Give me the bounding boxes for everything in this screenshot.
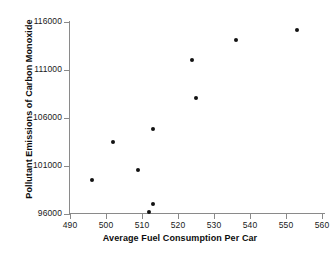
data-point: [147, 210, 151, 214]
x-tick-label: 550: [271, 221, 301, 230]
data-point: [151, 202, 155, 206]
data-point: [111, 140, 115, 144]
plot-area: [70, 22, 322, 214]
x-tick-label: 500: [91, 221, 121, 230]
y-tick-mark: [64, 70, 69, 71]
y-tick-mark: [64, 118, 69, 119]
y-tick-label: 96000: [16, 209, 62, 218]
x-tick-mark: [106, 214, 107, 219]
x-axis-title: Average Fuel Consumption Per Car: [40, 233, 320, 243]
y-tick-mark: [64, 22, 69, 23]
x-tick-mark: [322, 214, 323, 219]
x-tick-mark: [214, 214, 215, 219]
y-tick-label: 106000: [16, 113, 62, 122]
x-tick-mark: [250, 214, 251, 219]
x-tick-label: 510: [127, 221, 157, 230]
data-point: [136, 168, 140, 172]
data-point: [151, 127, 155, 131]
y-tick-label: 116000: [16, 17, 62, 26]
data-point: [190, 58, 194, 62]
y-axis-title: Pollutant Emissions of Carbon Monoxide: [24, 9, 34, 209]
y-tick-label: 101000: [16, 161, 62, 170]
x-tick-label: 540: [235, 221, 265, 230]
data-point: [90, 178, 94, 182]
x-tick-mark: [142, 214, 143, 219]
scatter-chart: 96000101000106000111000116000 4905005105…: [0, 0, 331, 256]
data-point: [295, 28, 299, 32]
y-tick-mark: [64, 166, 69, 167]
x-tick-mark: [70, 214, 71, 219]
x-tick-label: 530: [199, 221, 229, 230]
x-tick-mark: [286, 214, 287, 219]
x-tick-label: 520: [163, 221, 193, 230]
data-point: [234, 38, 238, 42]
y-tick-label: 111000: [16, 65, 62, 74]
x-tick-label: 490: [55, 221, 85, 230]
data-point: [194, 96, 198, 100]
x-tick-mark: [178, 214, 179, 219]
y-tick-mark: [64, 214, 69, 215]
x-tick-label: 560: [307, 221, 331, 230]
